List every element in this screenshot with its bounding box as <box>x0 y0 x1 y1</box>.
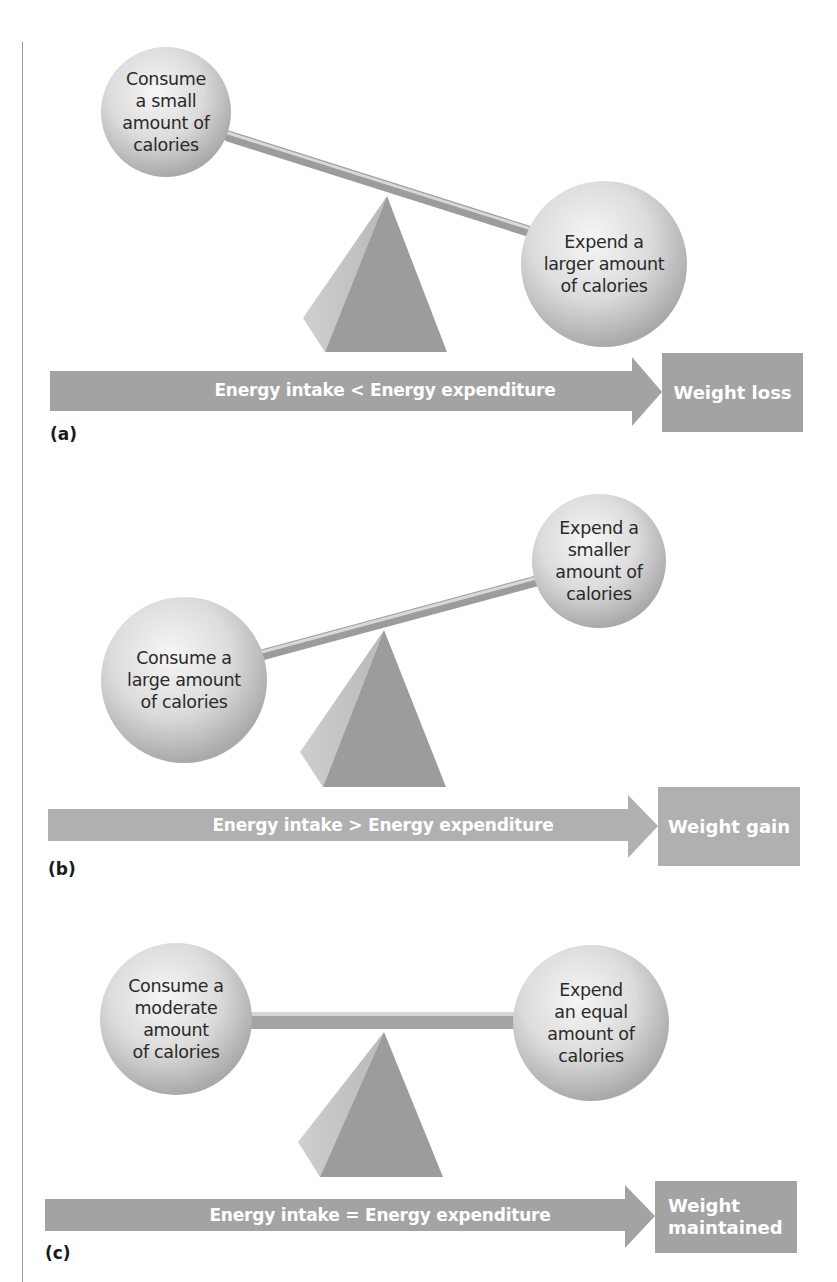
panel-c-result-box: Weight maintained <box>655 1181 797 1253</box>
panel-b-result-box: Weight gain <box>658 787 800 866</box>
panel-a-right-ball-label: Expend a larger amount of calories <box>521 181 687 347</box>
panel-b-beam <box>258 580 540 656</box>
panel-a-result-box: Weight loss <box>662 353 803 432</box>
panel-a-left-ball-label: Consume a small amount of calories <box>101 47 231 177</box>
panel-c-result-label-line2: maintained <box>668 1217 783 1239</box>
panel-b-right-ball-label: Expend a smaller amount of calories <box>532 494 666 628</box>
panel-b-left-ball-label: Consume a large amount of calories <box>101 597 267 763</box>
panel-b-arrow-label: Energy intake > Energy expenditure <box>158 815 608 835</box>
panel-c-arrow-label: Energy intake = Energy expenditure <box>155 1205 605 1225</box>
panel-a-result-label: Weight loss <box>673 382 791 403</box>
panel-a-label: (a) <box>50 424 77 444</box>
panel-c-label: (c) <box>45 1243 71 1263</box>
panel-c-right-ball-label: Expend an equal amount of calories <box>513 945 669 1101</box>
panel-b-result-label: Weight gain <box>668 816 790 837</box>
energy-balance-figure: Consume a small amount of calories Expen… <box>0 0 837 1282</box>
panel-b-label: (b) <box>48 859 76 879</box>
panel-c-result-label-line1: Weight <box>668 1195 740 1217</box>
panel-a-arrow-label: Energy intake < Energy expenditure <box>160 380 610 400</box>
panel-c-left-ball-label: Consume a moderate amount of calories <box>100 943 252 1095</box>
